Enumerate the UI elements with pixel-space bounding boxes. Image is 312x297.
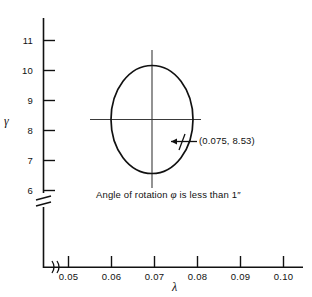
rotation-note-after: is less than 1″ — [180, 189, 241, 200]
x-tick-label-009: 0.09 — [224, 271, 258, 282]
plot-canvas — [0, 0, 312, 297]
y-axis-break-icon — [36, 196, 51, 206]
x-tick-label-005: 0.05 — [52, 271, 86, 282]
y-axis-ticks — [44, 41, 56, 191]
center-point-arrow — [171, 134, 197, 150]
y-tick-label-9: 9 — [13, 95, 33, 106]
rotation-note: Angle of rotation φ is less than 1″ — [96, 188, 241, 200]
y-tick-label-10: 10 — [13, 65, 33, 76]
y-axis-label: γ — [4, 114, 9, 129]
figure-container: 11 10 9 8 7 6 0.05 0.06 0.07 0.08 0.09 0… — [0, 0, 312, 297]
y-tick-label-8: 8 — [13, 125, 33, 136]
y-tick-label-6: 6 — [13, 185, 33, 196]
x-axis-ticks — [69, 256, 284, 267]
x-tick-label-006: 0.06 — [95, 271, 129, 282]
x-axis-label: λ — [172, 280, 177, 295]
y-tick-label-7: 7 — [13, 155, 33, 166]
phi-symbol: φ — [171, 188, 177, 200]
x-tick-label-010: 0.10 — [267, 271, 301, 282]
rotation-note-before: Angle of rotation — [96, 189, 168, 200]
x-tick-label-008: 0.08 — [181, 271, 215, 282]
x-tick-label-007: 0.07 — [138, 271, 172, 282]
center-point-label: (0.075, 8.53) — [199, 135, 255, 146]
y-tick-label-11: 11 — [13, 35, 33, 46]
